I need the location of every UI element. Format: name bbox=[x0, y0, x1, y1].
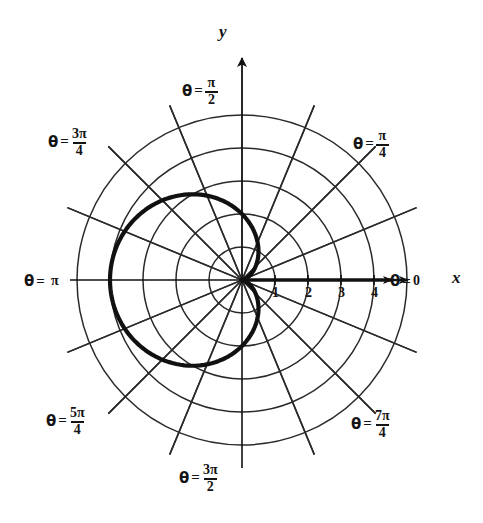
equals-sign: = bbox=[363, 135, 376, 152]
angle-fraction: 7π 4 bbox=[374, 409, 391, 441]
equals-sign: = bbox=[58, 133, 71, 150]
polar-plot-canvas bbox=[0, 0, 483, 523]
tick-label-1: 1 bbox=[272, 285, 279, 301]
fraction-denominator: 4 bbox=[376, 144, 389, 160]
theta-symbol: θ bbox=[182, 82, 192, 100]
angle-label-theta-pi-2: θ = π 2 bbox=[182, 75, 218, 107]
angle-label-theta-pi-4: θ = π 4 bbox=[353, 128, 389, 160]
fraction-denominator: 2 bbox=[204, 478, 217, 494]
angle-label-theta-0: θ = 0 bbox=[390, 272, 420, 290]
y-axis-label: y bbox=[219, 22, 227, 42]
fraction-denominator: 4 bbox=[73, 142, 86, 158]
tick-label-4: 4 bbox=[371, 285, 378, 301]
angle-value: π bbox=[47, 273, 59, 289]
fraction-denominator: 4 bbox=[376, 424, 389, 440]
fraction-numerator: 3π bbox=[202, 463, 219, 477]
fraction-numerator: 5π bbox=[69, 406, 86, 420]
angle-fraction: π 2 bbox=[205, 76, 218, 108]
angle-fraction: 5π 4 bbox=[69, 406, 86, 438]
angle-label-theta-pi: θ = π bbox=[24, 272, 59, 290]
angle-value: 0 bbox=[413, 273, 420, 289]
angle-label-theta-3pi-4: θ = 3π 4 bbox=[48, 126, 88, 158]
fraction-denominator: 2 bbox=[205, 91, 218, 107]
angle-label-theta-5pi-4: θ = 5π 4 bbox=[46, 405, 86, 437]
theta-symbol: θ bbox=[351, 415, 361, 433]
fraction-numerator: 7π bbox=[374, 409, 391, 423]
theta-symbol: θ bbox=[48, 133, 58, 151]
fraction-numerator: π bbox=[378, 129, 388, 143]
tick-label-3: 3 bbox=[338, 285, 345, 301]
fraction-denominator: 4 bbox=[71, 421, 84, 437]
theta-symbol: θ bbox=[390, 272, 400, 290]
angle-label-theta-3pi-2: θ = 3π 2 bbox=[179, 462, 219, 494]
theta-symbol: θ bbox=[353, 135, 363, 153]
equals-sign: = bbox=[34, 273, 47, 290]
equals-sign: = bbox=[361, 415, 374, 432]
theta-symbol: θ bbox=[179, 469, 189, 487]
equals-sign: = bbox=[189, 469, 202, 486]
angle-label-theta-7pi-4: θ = 7π 4 bbox=[351, 408, 391, 440]
equals-sign: = bbox=[192, 82, 205, 99]
tick-label-2: 2 bbox=[305, 285, 312, 301]
x-axis-label: x bbox=[452, 268, 461, 288]
theta-symbol: θ bbox=[46, 412, 56, 430]
angle-fraction: 3π 4 bbox=[71, 127, 88, 159]
theta-symbol: θ bbox=[24, 272, 34, 290]
polar-graph-figure: x y θ = 0 θ = π 4 θ = π 2 θ bbox=[0, 0, 483, 523]
equals-sign: = bbox=[400, 273, 413, 290]
angle-fraction: 3π 2 bbox=[202, 463, 219, 495]
equals-sign: = bbox=[56, 412, 69, 429]
angle-fraction: π 4 bbox=[376, 129, 389, 161]
fraction-numerator: 3π bbox=[71, 127, 88, 141]
fraction-numerator: π bbox=[207, 76, 217, 90]
